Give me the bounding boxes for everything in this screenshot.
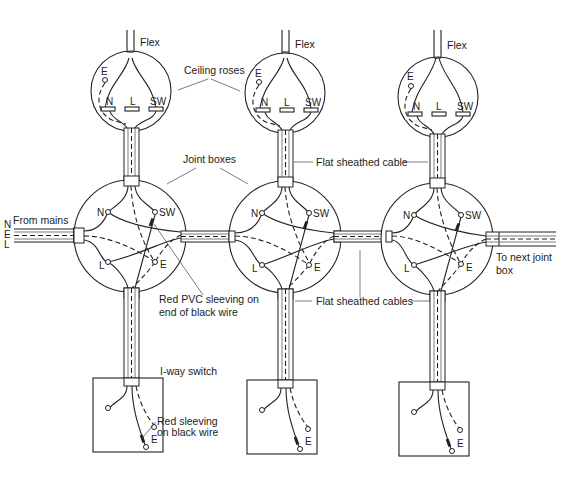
rose-3-e-label: E: [407, 71, 414, 82]
ceiling-roses-leader-1: [178, 79, 208, 90]
rose-2-l-label: L: [284, 97, 290, 108]
ceiling-rose-3: [398, 57, 478, 137]
outgoing-cable: [486, 232, 556, 246]
link-cable-1-2: [181, 231, 235, 242]
flex-label-3: Flex: [447, 39, 468, 51]
rose-2-n-label: N: [261, 97, 268, 108]
joint-boxes-leader-2: [220, 168, 248, 184]
rose-2-e-label: E: [255, 68, 262, 79]
unit-1: E N L SW N SW L E: [74, 30, 186, 452]
joint-box-3: [381, 183, 493, 295]
wiring-diagram: N E L From mains E N L SW: [0, 0, 580, 484]
flex-label-1: Flex: [140, 36, 161, 48]
jb-1-sw-label: SW: [159, 207, 176, 218]
flat-sheathed-cables-label: Flat sheathed cables: [316, 295, 413, 307]
joint-boxes-label: Joint boxes: [183, 153, 236, 165]
unit-3: E N L SW N SW L E: [381, 30, 493, 456]
switch-2-e-label: E: [305, 436, 312, 447]
rose-1-e-label: E: [101, 66, 108, 77]
one-way-switch-label: I-way switch: [160, 365, 217, 377]
rose-1-l-label: L: [130, 96, 136, 107]
rose-1-n-label: N: [106, 96, 113, 107]
flat-sheathed-cable-label: Flat sheathed cable: [316, 156, 408, 168]
jb-3-l-label: L: [404, 263, 410, 274]
rose-3-n-label: N: [413, 101, 420, 112]
jb-1-e-label: E: [160, 259, 167, 270]
unit-2: E N L SW N SW L E: [229, 30, 341, 454]
jb-3-e-label: E: [466, 262, 473, 273]
rose-2-sw-label: SW: [305, 97, 322, 108]
ceiling-rose-2: [245, 53, 325, 133]
jb-1-l-label: L: [99, 260, 105, 271]
ceiling-rose-1: [91, 51, 171, 131]
jb-3-sw-label: SW: [465, 210, 482, 221]
red-pvc-label-1: Red PVC sleeving on: [159, 293, 259, 305]
rose-3-l-label: L: [436, 101, 442, 112]
joint-boxes-leader-1: [167, 168, 196, 184]
flex-label-2: Flex: [295, 38, 316, 50]
switch-3-e-label: E: [457, 438, 464, 449]
rose-3-sw-label: SW: [457, 101, 474, 112]
red-pvc-label-2: end of black wire: [159, 306, 238, 318]
mains-l-label: L: [4, 239, 10, 250]
jb-2-n-label: N: [251, 208, 258, 219]
rose-1-sw-label: SW: [150, 96, 167, 107]
jb-1-n-label: N: [97, 207, 104, 218]
ceiling-roses-label: Ceiling roses: [184, 64, 245, 76]
jb-2-e-label: E: [314, 262, 321, 273]
to-next-joint-box-label-2: box: [496, 264, 514, 276]
link-cable-2-3: [334, 231, 386, 242]
to-next-joint-box-label-1: To next joint: [496, 251, 552, 263]
ceiling-roses-leader-2: [211, 79, 240, 91]
red-sleeving-label-2: on black wire: [157, 426, 218, 438]
joint-box-1: [74, 180, 186, 292]
jb-2-l-label: L: [252, 263, 258, 274]
jb-2-sw-label: SW: [313, 208, 330, 219]
jb-3-n-label: N: [403, 210, 410, 221]
from-mains-label: From mains: [13, 214, 68, 226]
